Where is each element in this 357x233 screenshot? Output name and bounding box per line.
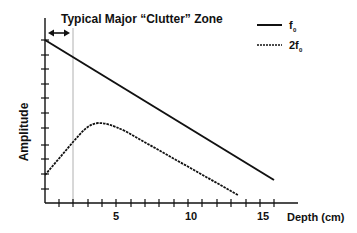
annotation-label: Typical Major “Clutter” Zone — [61, 12, 223, 26]
series-2f0-line — [45, 123, 238, 195]
x-tick-label-5: 5 — [113, 210, 119, 222]
legend-2f0-label: 2f — [289, 39, 299, 51]
chart-canvas: Typical Major “Clutter” Zone Depth (cm) … — [0, 0, 357, 233]
x-tick-label-15: 15 — [257, 210, 269, 222]
x-axis-label: Depth (cm) — [287, 211, 345, 223]
series-f0-line — [45, 40, 274, 180]
x-tick-label-10: 10 — [185, 210, 197, 222]
clutter-zone-arrow-icon — [48, 30, 70, 37]
legend-f0-subscript: 0 — [293, 27, 297, 33]
legend-2f0-subscript: 0 — [299, 47, 303, 53]
y-axis-label: Amplitude — [17, 102, 31, 161]
